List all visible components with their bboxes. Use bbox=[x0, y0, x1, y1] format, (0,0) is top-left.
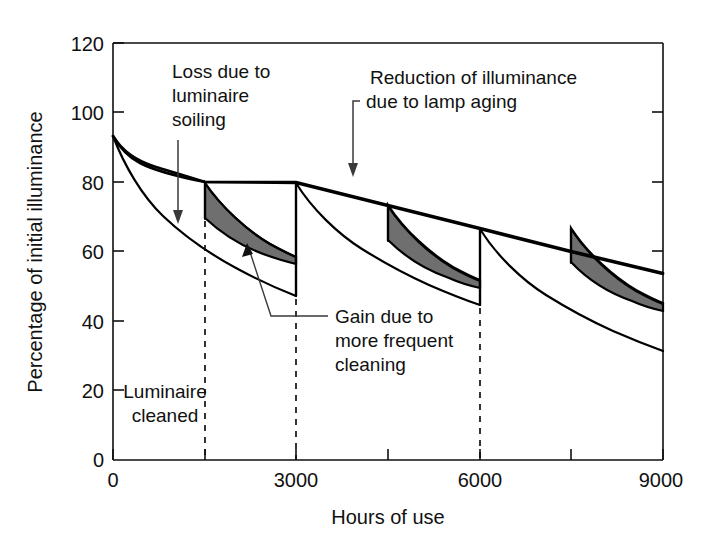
annotation-aging-arrow-shaft bbox=[353, 101, 360, 168]
x-axis-ticks bbox=[113, 449, 663, 460]
annotation-gain-line-3: cleaning bbox=[335, 354, 406, 375]
y-axis-ticks bbox=[113, 43, 124, 390]
x-tick-label-3000: 3000 bbox=[274, 469, 319, 491]
y-axis-tick-labels: 120 100 80 60 40 20 0 bbox=[71, 33, 104, 471]
series-lamp-aging-envelope bbox=[113, 136, 663, 273]
y-tick-label-40: 40 bbox=[82, 311, 104, 333]
annotation-loss-arrow-head bbox=[173, 210, 183, 224]
annotation-cleaned-line-1: Luminaire bbox=[123, 381, 206, 402]
annotation-loss-line-3: soiling bbox=[172, 109, 226, 130]
x-tick-label-0: 0 bbox=[107, 469, 118, 491]
annotation-cleaned-line-2: cleaned bbox=[132, 405, 199, 426]
annotation-gain-line-2: more frequent bbox=[335, 330, 454, 351]
annotation-loss-line-2: luminaire bbox=[172, 85, 249, 106]
illuminance-depreciation-chart: 120 100 80 60 40 20 0 Percentage of init… bbox=[0, 0, 715, 552]
annotation-aging-arrow-head bbox=[348, 163, 358, 177]
annotation-aging-line-2: due to lamp aging bbox=[366, 91, 517, 112]
x-axis-title: Hours of use bbox=[331, 506, 444, 528]
annotation-luminaire-cleaned: Luminaire cleaned bbox=[123, 381, 206, 426]
y-tick-label-60: 60 bbox=[82, 241, 104, 263]
x-axis-tick-labels: 0 3000 6000 9000 bbox=[107, 469, 683, 491]
annotation-loss-due-to-luminaire-soiling: Loss due to luminaire soiling bbox=[172, 61, 270, 224]
chart-container: 120 100 80 60 40 20 0 Percentage of init… bbox=[0, 0, 715, 552]
x-tick-label-9000: 9000 bbox=[639, 469, 684, 491]
y-tick-label-0: 0 bbox=[93, 449, 104, 471]
y-axis-right-ticks bbox=[652, 112, 663, 251]
y-axis-title: Percentage of initial illuminance bbox=[24, 111, 46, 392]
y-tick-label-120: 120 bbox=[71, 33, 104, 55]
annotation-gain-line-1: Gain due to bbox=[335, 306, 433, 327]
y-tick-label-80: 80 bbox=[82, 172, 104, 194]
y-tick-label-100: 100 bbox=[71, 102, 104, 124]
annotation-reduction-due-to-lamp-aging: Reduction of illuminance due to lamp agi… bbox=[348, 67, 577, 177]
y-tick-label-20: 20 bbox=[82, 380, 104, 402]
x-tick-label-6000: 6000 bbox=[458, 469, 503, 491]
annotation-aging-line-1: Reduction of illuminance bbox=[370, 67, 577, 88]
annotation-loss-line-1: Loss due to bbox=[172, 61, 270, 82]
